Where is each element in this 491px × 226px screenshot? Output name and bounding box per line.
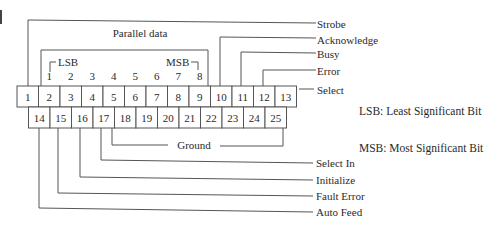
bottom-pin-24: 24 bbox=[244, 107, 266, 128]
msb-marker-bracket bbox=[191, 62, 198, 70]
pin-number: 13 bbox=[280, 91, 292, 103]
pin-number: 10 bbox=[216, 91, 228, 103]
pin-number: 4 bbox=[90, 91, 96, 103]
acknowledge-label: Acknowledge bbox=[317, 34, 378, 46]
top-pin-2: 2 bbox=[39, 86, 61, 107]
bottom-pin-19: 19 bbox=[136, 107, 158, 128]
pin-number: 5 bbox=[111, 91, 117, 103]
parallel-port-pinout-diagram: Parallel data LSB MSB 12345678 123456789… bbox=[0, 0, 491, 226]
bottom-pin-18: 18 bbox=[115, 107, 137, 128]
ground-bracket-right bbox=[220, 128, 283, 146]
pin-number: 8 bbox=[176, 91, 182, 103]
lsb-marker: LSB bbox=[58, 56, 78, 68]
bottom-pin-25: 25 bbox=[265, 107, 287, 128]
pin-number: 15 bbox=[55, 112, 67, 124]
bottom-pin-20: 20 bbox=[158, 107, 180, 128]
pin-number: 18 bbox=[120, 112, 132, 124]
parallel-data-title: Parallel data bbox=[113, 27, 168, 39]
pin-number: 1 bbox=[25, 91, 31, 103]
auto-feed-label: Auto Feed bbox=[316, 206, 363, 218]
data-bit-3: 3 bbox=[90, 70, 96, 82]
data-bit-7: 7 bbox=[176, 70, 182, 82]
pin-number: 11 bbox=[237, 91, 248, 103]
legend-msb: MSB: Most Significant Bit bbox=[359, 142, 484, 155]
pin-number: 21 bbox=[184, 112, 195, 124]
data-bit-2: 2 bbox=[68, 70, 74, 82]
acknowledge-connector-line bbox=[220, 37, 316, 86]
data-bit-6: 6 bbox=[154, 70, 160, 82]
top-pin-10: 10 bbox=[211, 86, 233, 107]
pin-number: 24 bbox=[249, 112, 261, 124]
connector-bottom-row: 141516171819202122232425 bbox=[29, 107, 287, 128]
edge-mark bbox=[0, 10, 2, 24]
data-bit-8: 8 bbox=[197, 70, 203, 82]
busy-label: Busy bbox=[317, 48, 340, 60]
bottom-pin-21: 21 bbox=[179, 107, 201, 128]
data-bit-1: 1 bbox=[47, 70, 53, 82]
pin-number: 19 bbox=[141, 112, 153, 124]
pin-number: 14 bbox=[34, 112, 46, 124]
top-pin-9: 9 bbox=[189, 86, 211, 107]
top-pin-3: 3 bbox=[60, 86, 82, 107]
error-label: Error bbox=[317, 65, 341, 77]
select-in-label: Select In bbox=[316, 157, 355, 169]
error-connector-line bbox=[263, 70, 316, 86]
pin-number: 2 bbox=[47, 91, 53, 103]
top-pin-1: 1 bbox=[17, 86, 39, 107]
top-pin-8: 8 bbox=[168, 86, 190, 107]
data-bit-4: 4 bbox=[111, 70, 117, 82]
bottom-pin-15: 15 bbox=[50, 107, 72, 128]
initialize-connector-line bbox=[80, 128, 313, 180]
fault-error-label: Fault Error bbox=[316, 190, 365, 202]
pin-number: 17 bbox=[98, 112, 110, 124]
top-pin-5: 5 bbox=[103, 86, 125, 107]
top-pin-11: 11 bbox=[232, 86, 254, 107]
bottom-pin-23: 23 bbox=[222, 107, 244, 128]
pin-number: 23 bbox=[227, 112, 239, 124]
bottom-pin-22: 22 bbox=[201, 107, 223, 128]
select-label: Select bbox=[317, 84, 344, 96]
busy-connector-line bbox=[241, 52, 316, 86]
bottom-pin-17: 17 bbox=[93, 107, 115, 128]
data-bit-5: 5 bbox=[133, 70, 139, 82]
connector-top-row: 12345678910111213 bbox=[17, 86, 297, 107]
pin-number: 25 bbox=[270, 112, 282, 124]
top-pin-13: 13 bbox=[275, 86, 297, 107]
msb-marker: MSB bbox=[166, 56, 189, 68]
pin-number: 6 bbox=[133, 91, 139, 103]
top-pin-7: 7 bbox=[146, 86, 168, 107]
bottom-pin-14: 14 bbox=[29, 107, 51, 128]
pin-number: 3 bbox=[68, 91, 74, 103]
pin-number: 22 bbox=[206, 112, 217, 124]
top-pin-12: 12 bbox=[254, 86, 276, 107]
pin-number: 16 bbox=[77, 112, 89, 124]
pin-number: 9 bbox=[197, 91, 203, 103]
top-pin-4: 4 bbox=[82, 86, 104, 107]
pin-number: 20 bbox=[163, 112, 175, 124]
top-pin-6: 6 bbox=[125, 86, 147, 107]
pin-number: 7 bbox=[154, 91, 160, 103]
bottom-pin-16: 16 bbox=[72, 107, 94, 128]
pin-number: 12 bbox=[259, 91, 270, 103]
initialize-label: Initialize bbox=[316, 174, 355, 186]
ground-label: Ground bbox=[177, 139, 211, 151]
data-bit-labels: 12345678 bbox=[47, 70, 204, 82]
ground-bracket-left bbox=[112, 128, 168, 145]
strobe-label: Strobe bbox=[317, 18, 346, 30]
legend-lsb: LSB: Least Significant Bit bbox=[359, 105, 482, 118]
